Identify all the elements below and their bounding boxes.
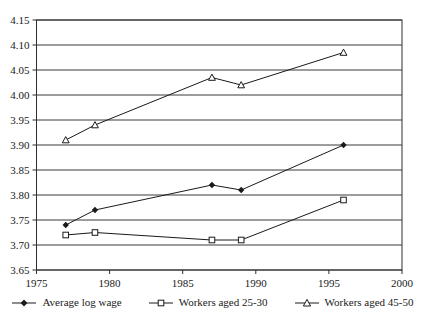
y-axis-tick-label: 3.75 xyxy=(10,214,30,226)
square-open-data-point xyxy=(209,237,215,243)
y-axis-tick-label: 3.90 xyxy=(10,139,30,151)
chart-legend: Average log wage Workers aged 25-30 Work… xyxy=(0,297,425,308)
triangle-open-data-point xyxy=(62,137,69,143)
y-axis-tick-label: 3.95 xyxy=(10,114,30,126)
legend-label-average-log-wage: Average log wage xyxy=(42,297,121,308)
triangle-open-data-point xyxy=(209,74,216,80)
series-line xyxy=(66,145,344,225)
square-open-data-point xyxy=(341,197,347,203)
x-axis-tick-label: 2000 xyxy=(391,277,414,289)
triangle-open-data-point xyxy=(340,49,347,55)
y-axis-tick-label: 4.15 xyxy=(10,14,30,26)
y-axis-tick-label: 3.80 xyxy=(10,189,30,201)
x-axis-tick-label: 1990 xyxy=(245,277,268,289)
x-axis-tick-label: 1975 xyxy=(26,277,49,289)
x-axis-tick-label: 1985 xyxy=(172,277,195,289)
y-axis-tick-label: 3.65 xyxy=(10,264,30,276)
square-open-data-point xyxy=(92,230,98,236)
square-open-data-point xyxy=(238,237,244,243)
legend-item-workers-45-50: Workers aged 45-50 xyxy=(294,297,414,308)
legend-item-average-log-wage: Average log wage xyxy=(11,297,121,308)
series-line xyxy=(66,53,344,141)
diamond-filled-data-point xyxy=(340,142,346,148)
diamond-filled-data-point xyxy=(92,207,98,213)
legend-item-workers-25-30: Workers aged 25-30 xyxy=(148,297,268,308)
square-open-marker-icon xyxy=(148,298,174,308)
diamond-filled-marker-icon xyxy=(11,298,37,308)
triangle-open-data-point xyxy=(92,122,99,128)
y-axis-tick-label: 3.70 xyxy=(10,239,30,251)
y-axis-tick-label: 4.00 xyxy=(10,89,30,101)
y-axis-tick-label: 3.85 xyxy=(10,164,30,176)
wage-chart-figure: 3.653.703.753.803.853.903.954.004.054.10… xyxy=(0,0,425,326)
y-axis-tick-label: 4.05 xyxy=(10,64,30,76)
y-axis-tick-label: 4.10 xyxy=(10,39,30,51)
legend-label-workers-25-30: Workers aged 25-30 xyxy=(179,297,268,308)
x-axis-tick-label: 1980 xyxy=(99,277,122,289)
diamond-filled-data-point xyxy=(238,187,244,193)
chart-plot-area: 3.653.703.753.803.853.903.954.004.054.10… xyxy=(0,0,425,326)
diamond-filled-data-point xyxy=(63,222,69,228)
diamond-filled-data-point xyxy=(209,182,215,188)
x-axis-tick-label: 1995 xyxy=(318,277,341,289)
triangle-open-marker-icon xyxy=(294,298,320,308)
square-open-data-point xyxy=(63,232,69,238)
legend-label-workers-45-50: Workers aged 45-50 xyxy=(325,297,414,308)
